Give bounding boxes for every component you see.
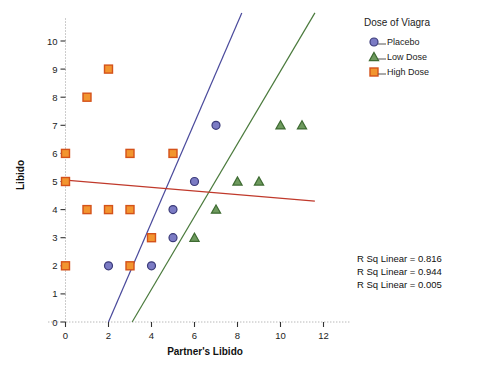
- y-axis-tick-label: 5: [52, 176, 57, 187]
- x-axis-tick-label: 4: [149, 330, 154, 341]
- x-axis-tick-label: 2: [106, 330, 111, 341]
- scatter-plot-figure: 012345678910 024681012 Partner's Libido …: [0, 0, 497, 367]
- point-high-dose: [169, 149, 177, 157]
- point-placebo: [105, 262, 113, 270]
- r-squared-annotation: R Sq Linear = 0.944: [357, 266, 442, 277]
- point-placebo: [148, 262, 156, 270]
- y-axis-tick-label: 9: [52, 64, 57, 75]
- y-axis-tick-label: 7: [52, 120, 57, 131]
- y-axis-tick-label: 1: [52, 288, 57, 299]
- x-axis-tick-label: 12: [318, 330, 329, 341]
- y-axis-tick-label: 2: [52, 260, 57, 271]
- point-high-dose: [105, 206, 113, 214]
- y-axis-tick-label: 10: [47, 36, 58, 47]
- x-axis-tick-label: 10: [275, 330, 286, 341]
- x-axis-label: Partner's Libido: [167, 346, 243, 357]
- y-axis-tick-label: 4: [52, 204, 57, 215]
- point-high-dose: [62, 149, 70, 157]
- point-high-dose: [126, 149, 134, 157]
- legend-marker-high-dose: [370, 68, 378, 76]
- point-placebo: [169, 206, 177, 214]
- r-squared-annotation: R Sq Linear = 0.005: [357, 279, 442, 290]
- point-placebo: [191, 178, 199, 186]
- point-high-dose: [148, 234, 156, 242]
- point-high-dose: [62, 178, 70, 186]
- x-axis-tick-label: 0: [63, 330, 68, 341]
- point-high-dose: [126, 262, 134, 270]
- legend-title: Dose of Viagra: [364, 17, 430, 28]
- r-squared-annotations: R Sq Linear = 0.816R Sq Linear = 0.944R …: [357, 253, 442, 290]
- legend-label-high-dose: High Dose: [387, 67, 429, 77]
- point-high-dose: [83, 93, 91, 101]
- x-axis-tick-label: 8: [235, 330, 240, 341]
- chart-canvas: 012345678910 024681012 Partner's Libido …: [0, 0, 497, 367]
- legend-marker-placebo: [370, 38, 378, 46]
- r-squared-annotation: R Sq Linear = 0.816: [357, 253, 442, 264]
- legend-label-placebo: Placebo: [387, 37, 420, 47]
- point-high-dose: [83, 206, 91, 214]
- x-axis-tick-label: 6: [192, 330, 197, 341]
- point-placebo: [169, 234, 177, 242]
- point-high-dose: [126, 206, 134, 214]
- point-high-dose: [105, 65, 113, 73]
- y-axis-tick-label: 3: [52, 232, 57, 243]
- y-axis-tick-label: 6: [52, 148, 57, 159]
- legend-label-low-dose: Low Dose: [387, 52, 427, 62]
- point-placebo: [212, 121, 220, 129]
- y-axis-label: Libido: [15, 160, 26, 190]
- point-high-dose: [62, 262, 70, 270]
- y-axis-tick-label: 8: [52, 92, 57, 103]
